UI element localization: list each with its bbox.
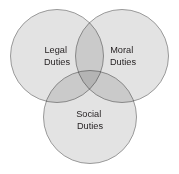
venn-label-social-line1: Social <box>76 109 101 119</box>
venn-diagram: Legal Duties Moral Duties Social Duties <box>0 0 179 174</box>
venn-label-social-line2: Duties <box>77 121 103 131</box>
venn-diagram-canvas: Legal Duties Moral Duties Social Duties <box>0 0 179 174</box>
venn-label-legal-line1: Legal <box>44 45 66 55</box>
venn-label-legal-line2: Duties <box>44 57 70 67</box>
venn-label-moral-line1: Moral <box>110 45 133 55</box>
venn-label-moral-line2: Duties <box>110 57 136 67</box>
